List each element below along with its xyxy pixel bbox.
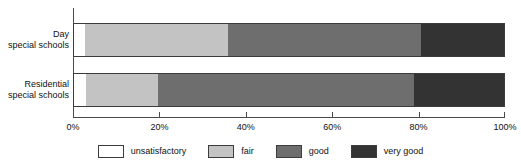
x-axis-tick [159,112,160,118]
bar-segment-very-good [421,23,505,57]
legend-item-fair[interactable]: fair [208,145,254,158]
category-label-day-special-schools: Day special schools [0,29,69,51]
bar-segment-unsatisfactory [73,23,85,57]
legend-swatch-fair [208,145,234,158]
legend-label: unsatisfactory [131,146,187,156]
legend-label: very good [384,146,424,156]
x-axis-tick-label: 80% [410,122,428,132]
x-axis-tick [504,112,505,118]
bar-segment-very-good [414,73,505,107]
legend-item-very-good[interactable]: very good [351,145,424,158]
bar-segment-good [228,23,421,57]
stacked-bar-chart: Day special schools Residential special … [0,0,521,164]
x-axis-tick [419,112,420,118]
legend-swatch-unsatisfactory [98,145,124,158]
x-axis-line [73,117,505,118]
x-axis-tick [332,112,333,118]
x-axis-tick [73,112,74,118]
x-axis-tick-label: 20% [150,122,168,132]
x-axis-tick-label: 40% [237,122,255,132]
x-axis-tick-label: 0% [66,122,79,132]
bar-row-day-special-schools [73,23,505,57]
legend-item-good[interactable]: good [276,145,329,158]
legend-swatch-very-good [351,145,377,158]
bar-row-residential-special-schools [73,73,505,107]
x-axis-tick [246,112,247,118]
x-axis-tick-label: 100% [493,122,516,132]
category-label-line2: special schools [0,90,69,101]
chart-legend: unsatisfactoryfairgoodvery good [0,141,521,161]
legend-label: good [309,146,329,156]
category-label-line2: special schools [0,40,69,51]
bar-segment-good [158,73,414,107]
bar-segment-fair [85,23,228,57]
category-label-line1: Day [0,29,69,40]
bar-segment-unsatisfactory [73,73,86,107]
x-axis-tick-label: 60% [323,122,341,132]
category-label-residential-special-schools: Residential special schools [0,79,69,101]
legend-item-unsatisfactory[interactable]: unsatisfactory [98,145,187,158]
bar-segment-fair [86,73,158,107]
legend-swatch-good [276,145,302,158]
category-label-line1: Residential [0,79,69,90]
legend-label: fair [241,146,254,156]
